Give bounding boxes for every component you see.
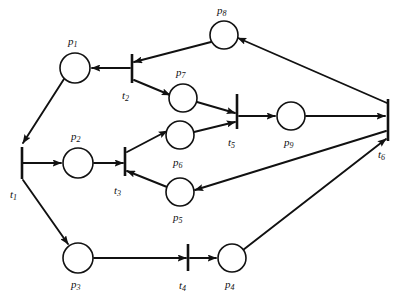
arc-t1-to-p3 xyxy=(23,180,68,244)
place-label-p9: p9 xyxy=(283,136,294,150)
transition-label-t5: t5 xyxy=(228,136,235,150)
arc-p5-to-t3 xyxy=(127,171,167,187)
place-p5 xyxy=(166,178,194,206)
arc-t6-to-p8 xyxy=(238,38,387,103)
arc-p1-to-t1 xyxy=(23,79,64,143)
place-p6 xyxy=(166,121,194,149)
place-p7 xyxy=(169,84,197,112)
transition-label-t1: t1 xyxy=(10,188,17,202)
place-p2 xyxy=(63,148,93,178)
arc-p7-to-t5 xyxy=(197,102,235,113)
petri-net-canvas: p1p2p3p4p5p6p7p8p9t1t2t3t4t5t6 xyxy=(0,0,407,304)
transition-label-t6: t6 xyxy=(378,148,385,162)
arc-p8-to-t2 xyxy=(134,42,211,62)
petri-net-diagram: p1p2p3p4p5p6p7p8p9t1t2t3t4t5t6 xyxy=(0,0,407,304)
place-label-p3: p3 xyxy=(70,278,81,292)
place-label-p5: p5 xyxy=(172,211,183,225)
transition-label-t3: t3 xyxy=(114,184,121,198)
place-label-p6: p6 xyxy=(172,156,183,170)
place-label-p8: p8 xyxy=(216,4,227,18)
arc-t2-to-p7 xyxy=(134,80,170,95)
transition-label-t2: t2 xyxy=(122,89,129,103)
place-label-p1: p1 xyxy=(67,35,78,49)
place-p1 xyxy=(60,53,90,83)
place-p3 xyxy=(63,243,93,273)
places-layer xyxy=(60,21,305,273)
arc-t3-to-p6 xyxy=(127,131,167,152)
place-p4 xyxy=(218,244,246,272)
place-label-p2: p2 xyxy=(70,130,81,144)
transition-label-t4: t4 xyxy=(179,279,186,293)
place-label-p7: p7 xyxy=(175,66,187,80)
place-p9 xyxy=(277,102,305,130)
place-p8 xyxy=(210,21,238,49)
place-label-p4: p4 xyxy=(224,278,235,292)
arc-p6-to-t5 xyxy=(194,122,235,132)
arc-p4-to-t6 xyxy=(243,139,386,250)
